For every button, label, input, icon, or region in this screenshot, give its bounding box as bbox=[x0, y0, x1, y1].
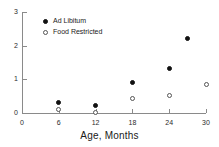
y-axis-tick-label: 0 bbox=[4, 109, 18, 117]
y-axis-tick bbox=[23, 79, 27, 80]
scatter-chart: 0123 0612182430 Ad LibitumFood Restricte… bbox=[0, 0, 219, 147]
y-axis-line bbox=[22, 12, 23, 113]
x-axis-tick-label: 12 bbox=[86, 119, 106, 127]
data-point bbox=[56, 107, 61, 112]
open-circle-icon bbox=[43, 30, 48, 35]
y-axis-tick bbox=[23, 46, 27, 47]
data-point bbox=[167, 66, 172, 71]
y-axis-tick-label: 3 bbox=[4, 8, 18, 16]
y-axis-tick bbox=[23, 113, 27, 114]
data-point bbox=[185, 36, 190, 41]
data-point bbox=[93, 103, 98, 108]
x-axis-tick bbox=[169, 109, 170, 113]
x-axis-tick-label: 24 bbox=[159, 119, 179, 127]
legend-item-label: Ad Libitum bbox=[53, 16, 86, 26]
plot-area: 0123 0612182430 Ad LibitumFood Restricte… bbox=[0, 0, 219, 147]
y-axis-tick-label: 2 bbox=[4, 42, 18, 50]
legend-item-label: Food Restricted bbox=[53, 27, 102, 37]
x-axis-line bbox=[22, 113, 206, 114]
x-axis-tick bbox=[132, 109, 133, 113]
data-point bbox=[56, 100, 61, 105]
x-axis-title: Age, Months bbox=[0, 130, 219, 141]
x-axis-tick-label: 18 bbox=[122, 119, 142, 127]
data-point bbox=[130, 80, 135, 85]
y-axis-tick-label: 1 bbox=[4, 75, 18, 83]
x-axis-tick bbox=[206, 109, 207, 113]
data-point bbox=[204, 82, 209, 87]
filled-circle-icon bbox=[43, 19, 48, 24]
data-point bbox=[93, 110, 98, 115]
data-point bbox=[130, 96, 135, 101]
y-axis-tick bbox=[23, 12, 27, 13]
x-axis-tick-label: 6 bbox=[49, 119, 69, 127]
x-axis-tick-label: 0 bbox=[12, 119, 32, 127]
data-point bbox=[167, 93, 172, 98]
x-axis-tick bbox=[22, 109, 23, 113]
x-axis-tick-label: 30 bbox=[196, 119, 216, 127]
